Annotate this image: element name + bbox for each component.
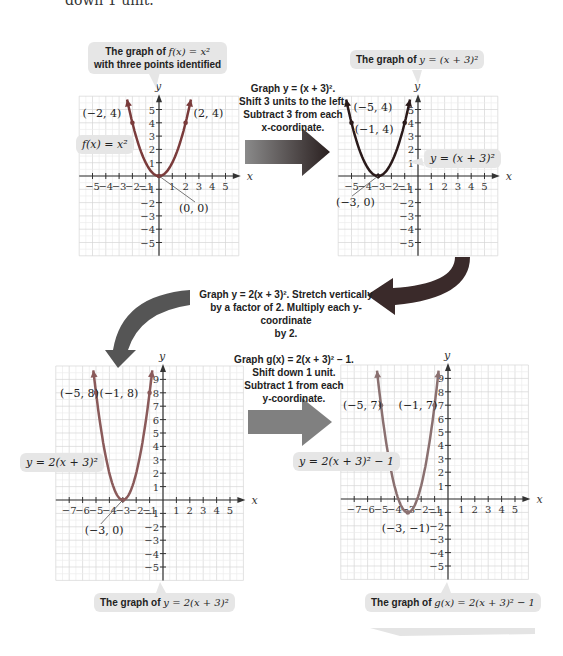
tick-label: −4	[429, 548, 444, 559]
tick-label: −5	[429, 561, 444, 572]
tick-label: 5	[512, 504, 518, 515]
tick-label: x	[506, 170, 513, 183]
data-point	[402, 121, 407, 126]
tick-label: −3	[140, 211, 155, 222]
data-point	[349, 121, 354, 126]
tick-label: 2	[187, 505, 193, 516]
step1-line: Shift 3 units to the left.	[238, 95, 348, 108]
y-axis-arrow-icon	[156, 94, 162, 102]
data-point	[147, 391, 152, 396]
tick-label: (−1, 4)	[355, 123, 394, 136]
x-axis-arrow-icon	[492, 173, 500, 179]
tick-label: 5	[481, 181, 487, 192]
graph3-title-text: The graph of	[100, 597, 163, 608]
tick-label: −2	[144, 522, 159, 533]
tick-label: 3	[153, 455, 159, 466]
graph1-function-text: f(x) = x²	[82, 138, 128, 151]
graph3-title-bubble: The graph of y = 2(x + 3)²	[94, 593, 235, 612]
tick-label: 1	[458, 504, 464, 515]
data-point	[130, 121, 135, 126]
tick-label: −1	[144, 508, 159, 519]
tick-label: y	[413, 80, 421, 93]
tick-label: (−1, 8)	[100, 387, 139, 400]
tick-label: (−1, 7)	[399, 399, 438, 412]
tick-label: 7	[153, 401, 159, 412]
tick-label: 5	[149, 105, 155, 116]
tick-label: −1	[140, 184, 155, 195]
tick-label: −3	[399, 211, 414, 222]
step3-line: y-coordinate.	[232, 392, 356, 405]
tick-label: (−3, 0)	[336, 196, 375, 209]
tick-label: 7	[438, 400, 444, 411]
graph2-title-text: The graph of	[356, 54, 419, 65]
y-axis-arrow-icon	[415, 94, 421, 102]
graph1-function-label: f(x) = x²	[76, 135, 134, 154]
tick-label: −4	[144, 549, 159, 560]
tick-label: −3	[429, 534, 444, 545]
graph3-function-text: y = 2(x + 3)²	[26, 456, 98, 469]
tick-label: 5	[153, 428, 159, 439]
graph4-title-text: The graph of	[371, 597, 434, 608]
tick-label: −5	[144, 562, 159, 573]
tick-label: 4	[153, 441, 159, 452]
tick-label: 1	[153, 482, 159, 493]
curved-arrow-left-icon	[367, 257, 470, 315]
tick-label: x	[251, 494, 258, 507]
tick-label: 4	[438, 440, 444, 451]
graph4-title-math: g(x) = 2(x + 3)² − 1	[434, 597, 535, 608]
tick-label: (−3, 0)	[85, 524, 124, 537]
graph1-title-line2: with three points identified	[94, 59, 221, 70]
tick-label: (−5, 8)	[60, 387, 99, 400]
x-axis-arrow-icon	[522, 496, 530, 502]
tick-label: 6	[153, 415, 159, 426]
tick-label: 3	[149, 131, 155, 142]
step3-text: Graph g(x) = 2(x + 3)² − 1. Shift down 1…	[232, 353, 356, 405]
tick-label: 5	[222, 181, 228, 192]
tick-label: 4	[498, 504, 504, 515]
tick-label: 2	[441, 181, 447, 192]
tick-label: 3	[485, 504, 491, 515]
bubble-pointer	[156, 582, 166, 593]
tick-label: 8	[438, 387, 444, 398]
x-axis-arrow-icon	[237, 497, 245, 503]
graph4-title-bubble: The graph of g(x) = 2(x + 3)² − 1	[365, 593, 541, 612]
right-arrow-icon	[245, 128, 330, 176]
tick-label: (−3, −1)	[382, 522, 430, 535]
tick-label: 1	[438, 481, 444, 492]
page-curl-shadow	[370, 628, 535, 636]
step3-line: Subtract 1 from each	[232, 379, 356, 392]
tick-label: (2, 4)	[194, 107, 224, 120]
tick-label: −4	[140, 224, 155, 235]
tick-label: −1	[399, 184, 414, 195]
tick-label: 3	[438, 454, 444, 465]
tick-label: 4	[468, 181, 474, 192]
step2-line: by 2.	[196, 327, 376, 340]
tick-label: (−2, 4)	[82, 107, 121, 120]
graph4-function-label: y = 2(x + 3)² − 1	[293, 452, 400, 471]
tick-label: (−5, 4)	[354, 101, 393, 114]
tick-label: 1	[428, 181, 434, 192]
tick-label: (0, 0)	[179, 202, 209, 215]
step2-line: by a factor of 2. Multiply each y-coordi…	[196, 301, 376, 327]
tick-label: 4	[149, 118, 155, 129]
tick-label: −3	[144, 535, 159, 546]
tick-label: 3	[408, 131, 414, 142]
step3-line: Graph g(x) = 2(x + 3)² − 1.	[232, 353, 356, 366]
step1-line: Subtract 3 from each	[238, 108, 348, 121]
graph-2: xy−5−4−3−2−112345−5−4−3−2−112345(−5, 4)(…	[336, 80, 513, 256]
graph2-title-bubble: The graph of y = (x + 3)²	[350, 50, 484, 69]
graph2-function-text: y = (x + 3)²	[430, 152, 495, 165]
graph1-title-bubble: The graph of f(x) = x² with three points…	[88, 42, 227, 74]
graph4-function-text: y = 2(x + 3)² − 1	[299, 455, 394, 468]
bubble-pointer	[441, 582, 451, 593]
tick-label: y	[158, 350, 166, 363]
y-axis-arrow-icon	[445, 363, 451, 371]
step1-line: x-coordinate.	[238, 121, 348, 134]
tick-label: −5	[140, 238, 155, 249]
tick-label: x	[247, 170, 254, 183]
tick-label: 2	[408, 144, 414, 155]
tick-label: 6	[438, 414, 444, 425]
data-point	[183, 121, 188, 126]
tick-label: 3	[200, 505, 206, 516]
tick-label: 3	[455, 181, 461, 192]
